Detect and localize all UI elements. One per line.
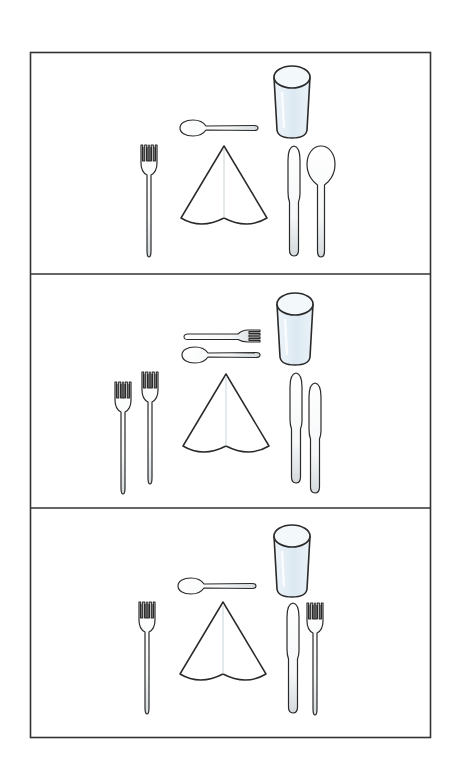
- spoon-icon: [307, 146, 335, 257]
- panel-3: Setting 3: fork, napkin, dessert spoon, …: [139, 525, 323, 715]
- dessert-spoon-icon: [180, 120, 258, 136]
- knife-icon: [288, 146, 300, 256]
- inner-fork-icon: [142, 372, 158, 484]
- glass-icon: [274, 525, 310, 597]
- knife-icon: [287, 603, 299, 713]
- fork-icon: [141, 145, 157, 257]
- right-fork-icon: [307, 603, 323, 715]
- outer-knife-icon: [309, 383, 321, 493]
- table-setting-figure: Setting 1: fork, napkin, dessert spoon, …: [0, 0, 455, 782]
- dessert-spoon-icon: [178, 578, 256, 594]
- fork-icon: [139, 602, 155, 714]
- napkin-icon: [181, 146, 267, 224]
- napkin-icon: [183, 374, 269, 452]
- glass-icon: [274, 66, 310, 138]
- napkin-icon: [180, 602, 266, 680]
- dessert-spoon-icon: [182, 347, 260, 363]
- glass-icon: [277, 293, 313, 365]
- panel-2: Setting 2: two forks, napkin, dessert fo…: [115, 293, 321, 494]
- dessert-fork-icon: [184, 330, 260, 342]
- outer-fork-icon: [115, 382, 131, 494]
- panel-1: Setting 1: fork, napkin, dessert spoon, …: [141, 66, 335, 257]
- inner-knife-icon: [290, 373, 302, 483]
